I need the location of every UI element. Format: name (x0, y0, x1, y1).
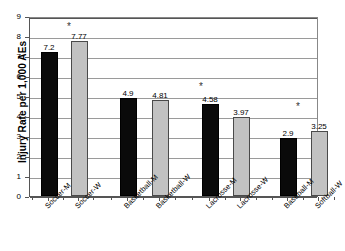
significance-asterisk-soccer: * (61, 22, 77, 32)
bar-value-label: 7.2 (35, 43, 63, 52)
gridline (30, 18, 317, 19)
x-tick-mark-minor (225, 197, 226, 200)
plot-area: 7.27.774.94.814.583.972.93.25 *** (29, 17, 318, 197)
x-tick-mark-minor (63, 197, 64, 200)
bar-value-label: 4.9 (114, 89, 142, 98)
x-tick-mark-minor (143, 197, 144, 200)
x-tick-mark-minor (256, 197, 257, 200)
y-tick-label: 7 (5, 53, 21, 61)
y-tick-label: 3 (5, 133, 21, 141)
y-tick-label: 6 (5, 73, 21, 81)
x-tick-mark-minor (192, 197, 193, 200)
bar-value-label: 4.58 (196, 95, 224, 104)
x-tick-mark-minor (272, 197, 273, 200)
bar-value-label: 4.81 (146, 91, 174, 100)
significance-asterisk-baseball: * (290, 102, 306, 112)
y-tick-label: 8 (5, 33, 21, 41)
bar-value-label: 3.25 (305, 122, 333, 131)
y-tick-label: 9 (5, 13, 21, 21)
significance-asterisk-lacrosse: * (193, 82, 209, 92)
x-tick-mark-minor (93, 197, 94, 200)
x-tick-mark-minor (111, 197, 112, 200)
x-tick-mark-minor (32, 197, 33, 200)
bar-soccer-w (71, 41, 88, 196)
x-tick-mark-minor (303, 197, 304, 200)
x-tick-mark-minor (334, 197, 335, 200)
bar-value-label: 2.9 (274, 129, 302, 138)
y-tick-label: 1 (5, 173, 21, 181)
bar-softball-w (311, 131, 328, 196)
bar-value-label: 7.77 (65, 32, 93, 41)
bar-soccer-m (41, 52, 58, 196)
y-tick-label: 0 (5, 193, 21, 201)
bar-baseball-m (280, 138, 297, 196)
y-tick-label: 4 (5, 113, 21, 121)
bar-lacrosse-m (202, 104, 219, 196)
bar-value-label: 3.97 (227, 108, 255, 117)
bar-basketball-m (120, 98, 137, 196)
y-tick-mark (25, 197, 29, 198)
y-tick-label: 2 (5, 153, 21, 161)
y-tick-label: 5 (5, 93, 21, 101)
x-tick-mark-minor (175, 197, 176, 200)
y-axis-title: Injury Rate per 1,000 AEs (16, 17, 30, 187)
